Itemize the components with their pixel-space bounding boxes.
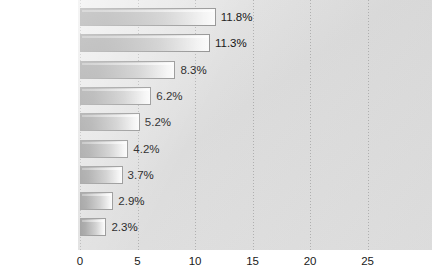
bar (80, 34, 210, 52)
bar (80, 8, 216, 26)
bar-value-label: 3.7% (128, 169, 154, 181)
bar-value-label: 2.9% (118, 195, 144, 207)
bar (80, 218, 106, 236)
bar (80, 166, 123, 184)
bar (80, 192, 113, 210)
bar-highlight (82, 89, 149, 91)
bar-highlight (82, 115, 138, 117)
bar-value-label: 8.3% (180, 64, 206, 76)
x-tick-label: 20 (304, 255, 317, 267)
bar (80, 61, 175, 79)
bar-highlight (82, 36, 208, 38)
bar-value-label: 11.3% (215, 37, 247, 49)
bar-value-label: 4.2% (133, 143, 159, 155)
bar-highlight (82, 142, 126, 144)
x-axis: 0510152025 (78, 250, 432, 275)
x-tick-label: 15 (246, 255, 259, 267)
bar (80, 113, 140, 131)
bar-chart: 11.8%11.3%8.3%6.2%5.2%4.2%3.7%2.9%2.3% P… (0, 0, 432, 275)
gridline-15 (253, 0, 254, 250)
bar (80, 87, 151, 105)
x-tick-label: 0 (77, 255, 83, 267)
bar-highlight (82, 220, 104, 222)
bar-highlight (82, 194, 111, 196)
bar (80, 140, 128, 158)
x-tick-label: 25 (361, 255, 374, 267)
x-tick-label: 10 (189, 255, 202, 267)
bar-value-label: 5.2% (145, 116, 171, 128)
bar-highlight (82, 10, 214, 12)
x-tick-label: 5 (134, 255, 140, 267)
plot-area: 11.8%11.3%8.3%6.2%5.2%4.2%3.7%2.9%2.3% (78, 0, 432, 250)
gridline-20 (310, 0, 311, 250)
gridline-25 (368, 0, 369, 250)
bar-highlight (82, 63, 173, 65)
bar-value-label: 6.2% (156, 90, 182, 102)
bar-value-label: 2.3% (111, 221, 137, 233)
bar-value-label: 11.8% (221, 11, 253, 23)
bar-highlight (82, 168, 121, 170)
